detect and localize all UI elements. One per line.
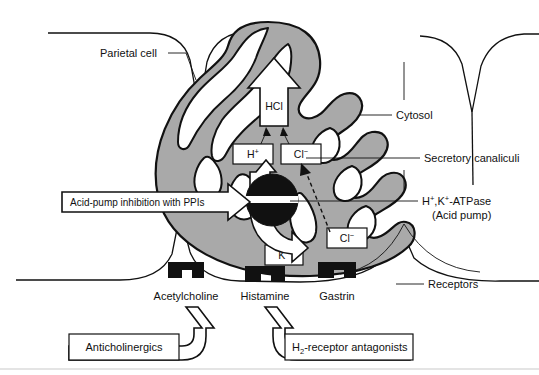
h2-base: H <box>292 341 300 353</box>
hcl-label: HCl <box>265 100 283 112</box>
gastrin-receptor-shape <box>318 262 356 278</box>
anticholinergics-label: Anticholinergics <box>85 341 163 353</box>
h-plus-base: H <box>247 148 255 160</box>
histamine-receptor-shape <box>245 266 285 282</box>
receptors-label: Receptors <box>428 278 479 290</box>
cl-minus-base-upper: Cl <box>294 148 304 160</box>
cl-minus-sup-lower: − <box>350 231 355 240</box>
atpase-label: H+,K+-ATPase <box>422 194 491 207</box>
parietal-cell-label: Parietal cell <box>100 47 157 59</box>
cl-minus-sup-upper: − <box>304 147 309 156</box>
cl-minus-box-lower: Cl− <box>327 228 367 248</box>
atpase-mid: ,K <box>434 195 445 207</box>
anticholinergics-arrow-box: Anticholinergics <box>69 307 214 360</box>
acid-pump-sublabel: (Acid pump) <box>432 209 491 221</box>
atpase-h: H <box>422 195 430 207</box>
cl-minus-base-lower: Cl <box>340 232 350 244</box>
h-plus-sup: + <box>255 147 260 156</box>
acid-pump-band <box>246 196 298 203</box>
histamine-label: Histamine <box>241 290 290 302</box>
ppi-label: Acid-pump inhibition with PPIs <box>70 197 205 208</box>
gastrin-label: Gastrin <box>319 290 354 302</box>
acetylcholine-receptor-shape <box>168 262 204 278</box>
cl-minus-box-upper: Cl− <box>281 144 321 164</box>
atpase-end: -ATPase <box>449 195 491 207</box>
acetylcholine-label: Acetylcholine <box>154 290 219 302</box>
parietal-cell-diagram: HCl H+ Cl− Cl− K+ <box>0 0 539 375</box>
h2-rest: -receptor antagonists <box>304 341 408 353</box>
h2-antagonists-arrow-box: H2-receptor antagonists <box>265 307 413 360</box>
secretory-canaliculi-label: Secretory canaliculi <box>424 152 519 164</box>
cytosol-label: Cytosol <box>396 109 433 121</box>
